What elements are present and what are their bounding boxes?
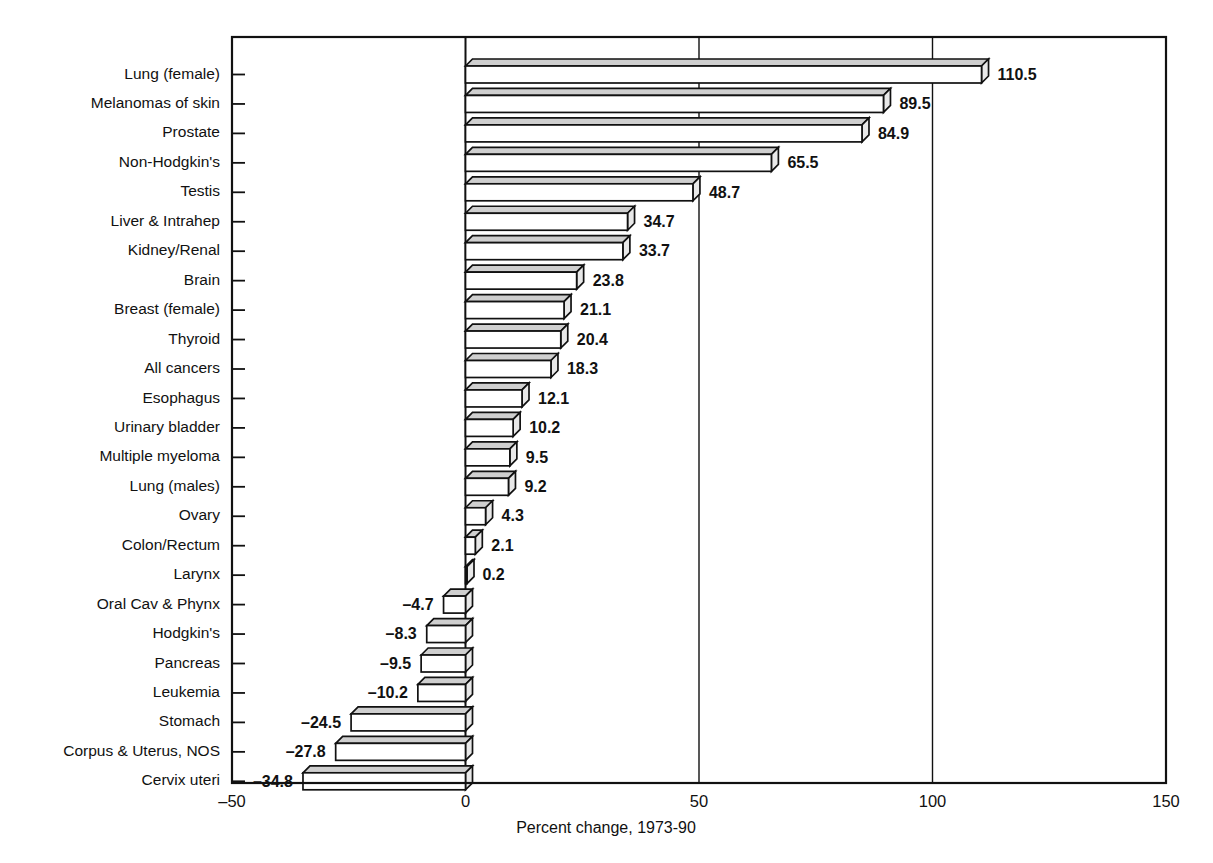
bar (466, 530, 483, 554)
bar (466, 59, 989, 83)
value-label: 9.2 (524, 478, 546, 495)
value-label: –24.5 (301, 714, 341, 731)
bar (336, 736, 473, 760)
bar (466, 324, 568, 348)
bar-top-face (466, 265, 584, 272)
value-label: 12.1 (538, 390, 569, 407)
bar-top-face (466, 324, 568, 331)
bar-front-face (466, 390, 523, 407)
bar (466, 501, 493, 525)
percent-change-bar-chart: Lung (female)Melanomas of skinProstateNo… (0, 0, 1213, 863)
bar (466, 354, 558, 378)
value-label: 33.7 (639, 242, 670, 259)
bar-front-face (466, 419, 514, 436)
bar (466, 383, 530, 407)
category-label: Hodgkin's (152, 624, 220, 641)
category-label: Esophagus (142, 389, 220, 406)
bar (466, 177, 700, 201)
value-label: –10.2 (368, 684, 408, 701)
bar (418, 677, 473, 701)
bar-top-face (421, 648, 472, 655)
bar-front-face (336, 743, 466, 760)
bar-front-face (466, 508, 486, 525)
bar-top-face (466, 471, 516, 478)
category-label: Colon/Rectum (122, 536, 220, 553)
value-label: –34.8 (253, 773, 293, 790)
category-label: Leukemia (153, 683, 221, 700)
category-label: Kidney/Renal (128, 241, 220, 258)
category-label: Stomach (159, 712, 220, 729)
bar-front-face (466, 567, 468, 584)
bar-front-face (466, 125, 862, 142)
bar (427, 619, 473, 643)
value-label: –9.5 (380, 655, 411, 672)
bar (466, 295, 572, 319)
bar (351, 707, 472, 731)
bar-front-face (418, 684, 466, 701)
category-label: Urinary bladder (114, 418, 220, 435)
bar (466, 118, 869, 142)
x-tick-label: 50 (690, 792, 708, 810)
value-label: 84.9 (878, 125, 909, 142)
category-label: Multiple myeloma (99, 447, 220, 464)
bar-front-face (466, 361, 551, 378)
value-label: –8.3 (386, 625, 417, 642)
bar-top-face (466, 118, 869, 125)
value-label: 23.8 (593, 272, 624, 289)
bar-top-face (466, 442, 517, 449)
bar-top-face (466, 177, 700, 184)
bar (466, 206, 635, 230)
category-label: Cervix uteri (142, 771, 220, 788)
bar-top-face (466, 147, 779, 154)
value-label: 65.5 (787, 154, 818, 171)
bar-front-face (466, 331, 561, 348)
category-label: Ovary (179, 506, 221, 523)
value-labels: 110.589.584.965.548.734.733.723.821.120.… (253, 66, 1037, 790)
chart-container: Lung (female)Melanomas of skinProstateNo… (0, 0, 1213, 863)
category-label: Oral Cav & Phynx (97, 595, 220, 612)
x-axis-tick-labels: –50050100150 (218, 792, 1180, 810)
bar (466, 412, 521, 436)
bar-top-face (336, 736, 473, 743)
value-label: 18.3 (567, 360, 598, 377)
value-label: 21.1 (580, 301, 611, 318)
bar-front-face (303, 773, 466, 790)
bar-top-face (466, 383, 530, 390)
bar (421, 648, 472, 672)
value-label: 110.5 (998, 66, 1037, 83)
bar (466, 147, 779, 171)
bar-top-face (466, 236, 630, 243)
bar (466, 442, 517, 466)
value-label: 89.5 (899, 95, 930, 112)
value-label: –27.8 (286, 743, 326, 760)
category-label: All cancers (144, 359, 220, 376)
bar-front-face (466, 95, 884, 112)
category-labels: Lung (female)Melanomas of skinProstateNo… (63, 65, 220, 789)
category-label: Pancreas (155, 654, 221, 671)
x-tick-label: 100 (919, 792, 947, 810)
bar-top-face (466, 206, 635, 213)
bar (466, 88, 891, 112)
bar-top-face (351, 707, 472, 714)
y-axis-ticks (232, 75, 245, 782)
bar-top-face (466, 412, 521, 419)
x-tick-label: –50 (218, 792, 246, 810)
bar-front-face (466, 154, 772, 171)
value-label: –4.7 (402, 596, 433, 613)
category-label: Lung (males) (130, 477, 220, 494)
category-label: Breast (female) (114, 300, 220, 317)
bar-front-face (351, 714, 465, 731)
value-label: 2.1 (491, 537, 513, 554)
category-label: Melanomas of skin (91, 94, 220, 111)
value-label: 20.4 (577, 331, 608, 348)
bar-front-face (466, 449, 510, 466)
value-label: 48.7 (709, 184, 740, 201)
bar-front-face (444, 596, 466, 613)
x-axis-title: Percent change, 1973-90 (516, 819, 696, 836)
bar-front-face (427, 626, 466, 643)
bar-front-face (466, 66, 982, 83)
category-label: Liver & Intrahep (111, 212, 220, 229)
category-label: Testis (180, 182, 220, 199)
bar-top-face (466, 88, 891, 95)
bar (303, 766, 473, 790)
